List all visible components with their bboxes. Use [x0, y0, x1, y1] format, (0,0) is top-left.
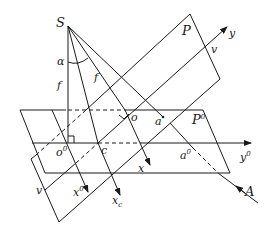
line-a-a0	[170, 123, 193, 148]
label-xc: xc	[112, 195, 122, 209]
line-s-a	[68, 26, 163, 117]
label-P: P	[182, 24, 191, 37]
line-s-o	[68, 26, 110, 88]
label-v-bottom: v	[36, 185, 42, 196]
label-x0: x0	[73, 186, 84, 198]
label-y: y	[229, 28, 235, 39]
line-a0-hidden	[193, 148, 218, 173]
label-c: c	[101, 145, 107, 156]
label-A: A	[245, 185, 254, 198]
line-s-o-lower	[110, 88, 125, 110]
line-s-c	[68, 26, 98, 143]
label-a0: a0	[180, 149, 191, 161]
label-y0: y0	[240, 151, 251, 163]
perspective-projection-diagram: S P y v α f f o a P0 o0 c a0 y0 x x0 xc …	[0, 0, 271, 236]
right-angle-o0	[68, 136, 74, 143]
alpha-arc	[68, 58, 88, 63]
ray-arrow	[236, 186, 245, 193]
label-x: x	[138, 163, 144, 174]
label-o0: o0	[56, 146, 67, 158]
label-P0: P0	[192, 113, 205, 126]
label-o: o	[131, 112, 138, 123]
label-f-vertical: f	[57, 80, 61, 91]
label-alpha: α	[57, 56, 64, 67]
label-S: S	[56, 16, 65, 29]
y-axis	[45, 27, 227, 190]
label-f-perpendicular: f	[94, 72, 98, 83]
label-v-top: v	[211, 44, 217, 55]
point-a	[162, 116, 165, 119]
label-a: a	[155, 116, 162, 127]
